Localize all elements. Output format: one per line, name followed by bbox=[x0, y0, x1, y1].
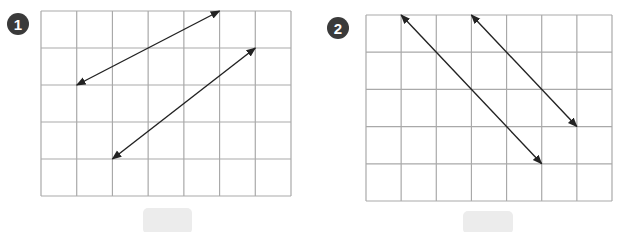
problem-2-grid bbox=[366, 15, 612, 201]
problem-2-answer-box[interactable] bbox=[463, 211, 513, 232]
problem-1-number-badge: 1 bbox=[7, 13, 29, 35]
double-arrow-line bbox=[471, 15, 576, 127]
problem-1-grid bbox=[41, 11, 291, 196]
problem-1-answer-box[interactable] bbox=[143, 208, 192, 232]
problem-2-number-badge: 2 bbox=[327, 17, 349, 39]
